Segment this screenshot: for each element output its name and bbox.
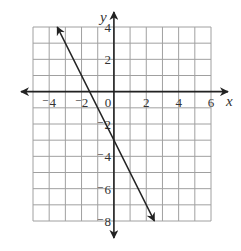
y-tick-label: ⁻6 [97, 182, 111, 197]
x-axis-label: x [225, 93, 233, 109]
x-tick-label: ⁻2 [75, 95, 89, 110]
y-tick-label: 2 [104, 52, 111, 67]
y-tick-label: ⁻8 [97, 214, 111, 229]
x-tick-label: 0 [105, 95, 112, 110]
x-tick-label: 2 [143, 95, 150, 110]
y-axis-label: y [98, 9, 107, 25]
grid-lines [33, 27, 211, 221]
axes [21, 12, 228, 238]
coordinate-plane: ⁻4⁻2024642⁻2⁻4⁻6⁻8 x y [0, 0, 241, 251]
x-tick-label: 4 [175, 95, 182, 110]
x-tick-label: ⁻4 [42, 95, 56, 110]
y-tick-label: ⁻4 [97, 149, 111, 164]
x-tick-label: 6 [208, 95, 215, 110]
